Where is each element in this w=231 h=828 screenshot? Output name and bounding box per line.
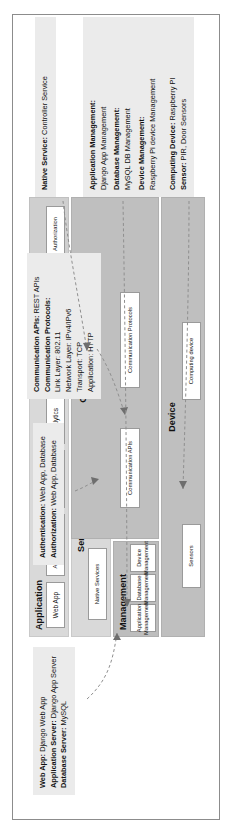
cell-device-management[interactable]: Device Management xyxy=(130,544,156,572)
cell-computing-device[interactable]: Computing device xyxy=(182,322,201,400)
callout-application-stack: Web App: Django Web App Application Serv… xyxy=(33,647,75,795)
callout-term: Communication Protocols: xyxy=(43,298,52,392)
cell-database-management[interactable]: Database Management xyxy=(130,574,156,602)
callout-security: Authentication: Web App, Database Author… xyxy=(33,423,64,565)
callout-value: Controller Service xyxy=(40,76,49,137)
callout-term: Device Management: xyxy=(137,116,146,190)
callout-term: Authentication: xyxy=(38,504,47,558)
connector-application xyxy=(87,633,117,699)
cell-sensors[interactable]: Sensors xyxy=(182,524,201,588)
layer-device[interactable]: Device Sensors Computing device xyxy=(161,197,205,637)
callout-value: Django App Server xyxy=(49,656,58,720)
callout-term: Sensor: xyxy=(179,162,188,190)
callout-value: Link Layer: 802.11 xyxy=(53,332,62,392)
callout-term: Native Service: xyxy=(40,137,49,190)
callout-value: Raspberry PI xyxy=(168,77,177,122)
callout-value: MySQL DB Management xyxy=(123,108,132,190)
callout-management: Application Management: Django App Manag… xyxy=(83,17,163,197)
callout-value: Django App Management xyxy=(99,107,108,190)
layer-application-title: Application xyxy=(34,580,44,630)
callout-value: Network Layer: IPv4/IPv6 xyxy=(64,309,73,392)
callout-communication: Communication APIs: REST APIs Communicat… xyxy=(27,253,101,399)
callout-term: Application Management: xyxy=(88,100,97,190)
cell-native-services[interactable]: Native Services xyxy=(88,548,107,620)
callout-value: Django Web App xyxy=(38,697,47,754)
cell-web-app[interactable]: Web App xyxy=(46,582,65,628)
callout-device: Computing Device: Raspberry PI Sensor: P… xyxy=(163,17,194,197)
callout-term: Application Server: xyxy=(49,720,58,788)
callout-term: Computing Device: xyxy=(168,123,177,190)
callout-value: Application: HTTP xyxy=(86,332,95,392)
callout-term: Web App: xyxy=(38,754,47,788)
layer-management[interactable]: Management Application Management Databa… xyxy=(113,541,159,637)
cell-application-management[interactable]: Application Management xyxy=(130,604,156,632)
callout-term: Communication APIs: xyxy=(32,315,41,392)
layer-device-title: Device xyxy=(167,198,177,636)
callout-value: PIR, Door Sensors xyxy=(179,99,188,163)
rotated-figure-stage: Application Web App Application Server D… xyxy=(0,0,231,828)
callout-value: Web App, Database xyxy=(49,440,58,508)
callout-value: Transport: TCP xyxy=(75,342,84,392)
callout-native-service: Native Service: Controller Service xyxy=(35,17,56,197)
callout-term: Database Server: xyxy=(59,728,68,788)
cell-communication-apis[interactable]: Communication APIs xyxy=(120,428,140,508)
callout-term: Database Management: xyxy=(112,107,121,190)
callout-value: Raspberry Pi device Management xyxy=(148,79,157,190)
callout-value: REST APIs xyxy=(32,277,41,316)
cell-communication-protocols[interactable]: Communication Protocols xyxy=(120,292,140,388)
layer-management-title: Management xyxy=(118,574,128,630)
callout-value: MySQL xyxy=(59,701,68,728)
callout-term: Authorization: xyxy=(49,508,58,558)
callout-value: Web App, Database xyxy=(38,436,47,504)
figure-frame: Application Web App Application Server D… xyxy=(12,14,220,820)
